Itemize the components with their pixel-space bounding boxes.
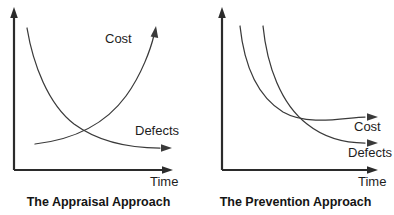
prevention-defects-curve: [263, 26, 365, 143]
prevention-cost-label: Cost: [354, 120, 381, 133]
figure-canvas: Cost Defects Time The Appraisal Approach…: [0, 0, 394, 215]
appraisal-defects-curve-arrowhead: [161, 144, 172, 152]
prevention-chart-plot: [197, 0, 394, 196]
prevention-x-axis-arrowhead: [367, 166, 378, 174]
appraisal-defects-label: Defects: [135, 124, 179, 137]
appraisal-y-axis-arrowhead: [10, 7, 18, 18]
appraisal-caption: The Appraisal Approach: [0, 196, 197, 209]
appraisal-cost-label: Cost: [105, 32, 132, 45]
appraisal-time-axis-label: Time: [150, 175, 178, 188]
prevention-y-axis-arrowhead: [218, 7, 226, 18]
prevention-time-axis-label: Time: [358, 175, 386, 188]
prevention-caption: The Prevention Approach: [197, 196, 394, 209]
panel-appraisal-approach: Cost Defects Time The Appraisal Approach: [0, 0, 197, 215]
prevention-defects-label: Defects: [348, 146, 392, 159]
appraisal-cost-curve-arrowhead: [151, 26, 159, 38]
appraisal-x-axis-arrowhead: [162, 166, 173, 174]
panel-prevention-approach: Cost Defects Time The Prevention Approac…: [197, 0, 394, 215]
prevention-cost-curve: [240, 26, 365, 120]
appraisal-chart-plot: [0, 0, 197, 196]
